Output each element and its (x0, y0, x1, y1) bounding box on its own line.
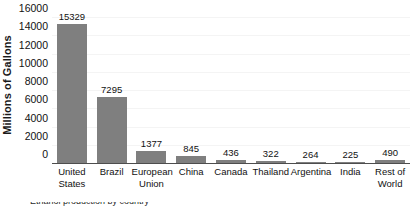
y-axis-tick-labels: 0200040006000800010000120001400016000 (0, 18, 48, 164)
x-axis-category-label-line2: World (370, 178, 410, 190)
x-axis-category-label-line1: India (340, 166, 361, 177)
y-axis-tick-label: 14000 (4, 21, 48, 31)
plot-area: 1532972951377845436322264225490 (52, 18, 410, 164)
x-axis-category-label-line1: Argentina (291, 166, 332, 177)
x-axis-category-label: Thailand (251, 166, 291, 178)
bar (97, 97, 127, 164)
x-axis-category-label-line2: States (52, 178, 92, 190)
bar-group: 490 (370, 18, 410, 164)
bar-value-label: 7295 (101, 85, 122, 95)
bar-group: 1377 (132, 18, 172, 164)
x-axis-category-label: Argentina (291, 166, 331, 178)
bar-chart: Millions of Gallons 02000400060008000100… (0, 0, 418, 206)
x-axis-category-labels: UnitedStatesBrazilEuropeanUnionChinaCana… (52, 166, 410, 206)
y-axis-tick-label: 0 (4, 149, 48, 159)
x-axis-line (52, 163, 410, 164)
bar-value-label: 490 (382, 148, 398, 158)
y-axis-tick-label: 10000 (4, 58, 48, 68)
bar-group: 845 (171, 18, 211, 164)
y-axis-tick-label: 4000 (4, 113, 48, 123)
y-axis-tick-label: 16000 (4, 3, 48, 13)
bar-group: 264 (291, 18, 331, 164)
bar-group: 15329 (52, 18, 92, 164)
x-axis-category-label-line1: United (58, 166, 85, 177)
x-axis-category-label: Canada (211, 166, 251, 178)
cut-off-caption-text: Ethanol production by country (30, 202, 260, 206)
bars-layer: 1532972951377845436322264225490 (52, 18, 410, 164)
x-axis-category-label-line1: European (132, 166, 173, 177)
bar-group: 436 (211, 18, 251, 164)
y-axis-tick-label: 2000 (4, 131, 48, 141)
x-axis-category-label-line1: Rest of (375, 166, 405, 177)
x-axis-category-label-line1: Thailand (253, 166, 289, 177)
x-axis-category-label: EuropeanUnion (132, 166, 172, 189)
bar-group: 322 (251, 18, 291, 164)
x-axis-category-label: Rest ofWorld (370, 166, 410, 189)
bar-value-label: 15329 (59, 12, 85, 22)
y-axis-tick-label: 6000 (4, 94, 48, 104)
x-axis-category-label: India (330, 166, 370, 178)
cut-off-caption: Ethanol production by country (30, 202, 260, 206)
x-axis-category-label: Brazil (92, 166, 132, 178)
x-axis-category-label-line1: Canada (214, 166, 247, 177)
bar (57, 24, 87, 164)
y-axis-tick-label: 8000 (4, 76, 48, 86)
bar-group: 7295 (92, 18, 132, 164)
x-axis-category-label-line1: Brazil (100, 166, 124, 177)
bar-group: 225 (330, 18, 370, 164)
bar-value-label: 225 (342, 150, 358, 160)
x-axis-category-label-line1: China (179, 166, 204, 177)
bar-value-label: 845 (183, 144, 199, 154)
x-axis-category-label: China (171, 166, 211, 178)
x-axis-category-label-line2: Union (132, 178, 172, 190)
x-axis-category-label: UnitedStates (52, 166, 92, 189)
y-axis-tick-label: 12000 (4, 40, 48, 50)
bar-value-label: 436 (223, 148, 239, 158)
bar-value-label: 264 (303, 150, 319, 160)
bar-value-label: 1377 (141, 139, 162, 149)
bar-value-label: 322 (263, 149, 279, 159)
